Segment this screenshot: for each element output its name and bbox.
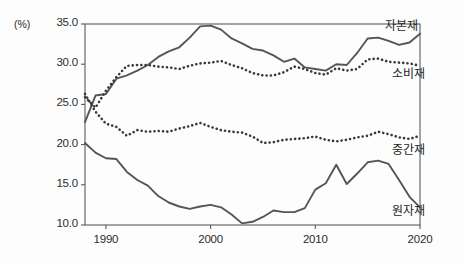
tick-marks: [81, 24, 420, 229]
x-tick-label: 2000: [189, 233, 233, 245]
y-tick-label: 10.0: [56, 217, 78, 229]
plot-border: [85, 24, 420, 225]
series-label-1: 소비재: [392, 64, 424, 81]
y-tick-label: 20.0: [56, 137, 78, 149]
x-tick-label: 1990: [84, 233, 128, 245]
y-tick-label: 25.0: [56, 96, 78, 108]
series-label-2: 중간재: [392, 140, 424, 157]
y-axis-unit-label: (%): [14, 18, 30, 30]
x-tick-label: 2020: [398, 233, 442, 245]
series-paths: [85, 26, 420, 224]
chart-container: (%) 10.015.020.025.030.035.0 19902000201…: [0, 0, 463, 265]
x-tick-label: 2010: [293, 233, 337, 245]
y-tick-label: 35.0: [56, 16, 78, 28]
series-line-3: [85, 143, 420, 223]
plot-frame: [85, 24, 420, 225]
series-label-3: 원자재: [392, 201, 424, 218]
y-tick-label: 15.0: [56, 177, 78, 189]
series-line-1: [85, 59, 420, 108]
series-line-0: [85, 26, 420, 122]
y-tick-label: 30.0: [56, 56, 78, 68]
series-line-2: [85, 94, 420, 143]
series-label-0: 자본재: [385, 16, 417, 33]
